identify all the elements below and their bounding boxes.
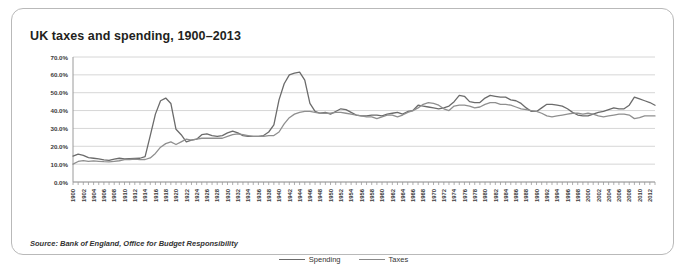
x-tick-label: 1916 [153,188,159,202]
legend-label-spending: Spending [309,255,341,264]
x-tick-label: 2008 [626,188,632,202]
legend-label-taxes: Taxes [389,255,409,264]
x-tick-label: 1930 [225,188,231,202]
x-tick-label: 1992 [544,188,550,202]
y-tick-label: 20.0% [50,143,68,150]
x-tick-label: 1962 [390,188,396,202]
x-tick-label: 1978 [472,188,478,202]
x-tick-label: 1994 [554,188,560,202]
x-tick-label: 1960 [379,188,385,202]
x-tick-label: 1928 [214,188,220,202]
legend-swatch-taxes [359,259,385,260]
y-tick-label: 60.0% [50,71,68,78]
y-tick-label: 50.0% [50,89,68,96]
y-tick-label: 30.0% [50,125,68,132]
x-tick-label: 1904 [91,188,97,202]
legend-item-spending: Spending [279,255,341,264]
x-tick-label: 1920 [173,188,179,202]
x-tick-label: 2004 [606,188,612,202]
line-chart: 0.0%10.0%20.0%30.0%40.0%50.0%60.0%70.0% … [29,53,658,229]
legend-item-taxes: Taxes [359,255,409,264]
x-tick-label: 1948 [317,188,323,202]
x-tick-label: 1946 [307,188,313,202]
x-tick-label: 1932 [235,188,241,202]
x-tick-label: 2006 [616,188,622,202]
x-tick-label: 1934 [245,188,251,202]
x-tick-label: 1966 [410,188,416,202]
x-tick-label: 1968 [420,188,426,202]
x-tick-label: 1980 [482,188,488,202]
x-tick-label: 1942 [287,188,293,202]
x-tick-label: 1924 [194,188,200,202]
x-tick-label: 1912 [132,188,138,202]
x-tick-label: 1988 [523,188,529,202]
x-tick-label: 2002 [596,188,602,202]
x-tick-label: 1944 [297,188,303,202]
x-tick-label: 1950 [328,188,334,202]
x-tick-label: 2010 [637,188,643,202]
x-tick-label: 1956 [359,188,365,202]
x-tick-label: 1922 [184,188,190,202]
x-tick-label: 1972 [441,188,447,202]
chart-title: UK taxes and spending, 1900–2013 [30,29,241,43]
y-axis-labels-group: 0.0%10.0%20.0%30.0%40.0%50.0%60.0%70.0% [50,54,68,186]
x-tick-label: 1982 [493,188,499,202]
x-tick-label: 1986 [513,188,519,202]
x-tick-label: 1952 [338,188,344,202]
x-tick-label: 1910 [122,188,128,202]
x-tick-label: 1936 [256,188,262,202]
x-tick-label: 1964 [400,188,406,202]
y-tick-label: 0.0% [54,179,69,186]
y-tick-label: 10.0% [50,161,68,168]
x-tick-label: 1926 [204,188,210,202]
x-tick-label: 1908 [111,188,117,202]
x-tick-label: 2012 [647,188,653,202]
x-axis-labels-group: 1900190219041906190819101912191419161918… [70,188,653,202]
x-tick-label: 1976 [462,188,468,202]
legend-swatch-spending [279,259,305,260]
series-line-taxes [73,103,655,165]
x-tick-label: 1918 [163,188,169,202]
x-tick-label: 1970 [431,188,437,202]
gridlines-group [73,57,655,182]
x-tick-label: 1990 [534,188,540,202]
x-tick-label: 1902 [81,188,87,202]
y-tick-label: 40.0% [50,107,68,114]
x-tick-label: 1984 [503,188,509,202]
x-tick-label: 1900 [70,188,76,202]
source-note: Source: Bank of England, Office for Budg… [30,239,238,248]
x-tick-label: 1974 [451,188,457,202]
x-tick-label: 1996 [565,188,571,202]
chart-card: UK taxes and spending, 1900–2013 0.0%10.… [11,8,674,255]
x-tick-label: 1914 [142,188,148,202]
x-tick-label: 1998 [575,188,581,202]
x-tick-label: 1938 [266,188,272,202]
x-tick-label: 1954 [348,188,354,202]
y-tick-label: 70.0% [50,54,68,61]
chart-legend: Spending Taxes [29,251,658,267]
x-tick-label: 1958 [369,188,375,202]
x-tick-label: 1940 [276,188,282,202]
x-tick-label: 2000 [585,188,591,202]
chart-plot-area: 0.0%10.0%20.0%30.0%40.0%50.0%60.0%70.0% … [29,53,658,229]
x-tick-label: 1906 [101,188,107,202]
